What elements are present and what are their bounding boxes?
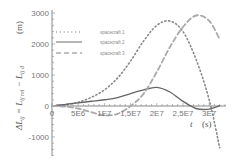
- axes: [52, 10, 226, 156]
- series-line-spacecraft-3: [52, 15, 220, 115]
- x-tick-label: 3E7: [202, 109, 217, 118]
- line-chart: spacecraft 1spacecraft 2spacecraft 3 -10…: [0, 0, 237, 164]
- series-line-spacecraft-1: [52, 21, 220, 148]
- plot-lines: [52, 15, 220, 148]
- y-axis-label: ΔLij = Lij rel − Lij d: [14, 65, 25, 131]
- y-tick-label: 3000: [31, 9, 49, 18]
- y-tick-label: -1000: [29, 133, 50, 142]
- x-axis-var: t: [190, 119, 193, 129]
- svg-text:ΔLij = Lij rel − Lij d: ΔLij = Lij rel − Lij d: [14, 65, 25, 131]
- x-tick-label: 0: [50, 109, 55, 118]
- legend-label: spacecraft 2: [100, 40, 125, 45]
- x-tick-label: 2E7: [150, 109, 165, 118]
- x-tick-label: 1,5E7: [120, 109, 141, 118]
- y-axis-unit: (m): [14, 21, 24, 34]
- y-tick-label: 2000: [31, 40, 49, 49]
- legend-label: spacecraft 1: [100, 30, 125, 35]
- y-unit-text: (m): [14, 21, 24, 34]
- legend-label: spacecraft 3: [100, 51, 125, 56]
- legend: spacecraft 1spacecraft 2spacecraft 3: [56, 30, 125, 56]
- y-tick-label: 1000: [31, 71, 49, 80]
- x-axis-unit: (s): [202, 119, 212, 129]
- x-tick-label: 5E6: [71, 109, 86, 118]
- x-tick-label: 2,5E7: [173, 109, 194, 118]
- x-tick-label: 1E7: [97, 109, 112, 118]
